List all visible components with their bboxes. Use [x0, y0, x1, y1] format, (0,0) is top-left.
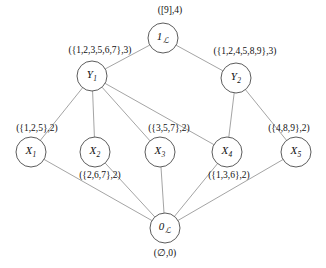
- node-label-x1: X1: [26, 145, 37, 159]
- edge-bot-x1: [44, 159, 152, 220]
- annot-y1: ({1,2,3,5,6,7},3): [69, 46, 132, 56]
- node-label-subscript-x1: 1: [32, 150, 36, 159]
- annot-x2: ({2,6,7},2): [79, 171, 121, 181]
- node-label-y2: Y2: [231, 71, 241, 85]
- annot-x5: ({4,8,9},2): [268, 124, 310, 134]
- node-label-base-x1: X: [26, 144, 33, 156]
- node-label-base-x2: X: [90, 144, 97, 156]
- edge-x4-y1: [105, 83, 214, 144]
- edge-bot-x5: [178, 160, 283, 221]
- node-label-subscript-x2: 2: [96, 150, 100, 159]
- node-label-x2: X2: [90, 145, 101, 159]
- annot-bot: (∅,0): [154, 249, 176, 259]
- node-label-base-bot: 0: [159, 220, 165, 232]
- node-label-bot: 0ℒ: [159, 221, 171, 235]
- node-label-script-top: ℒ: [163, 36, 170, 45]
- node-label-x3: X3: [155, 145, 166, 159]
- node-label-subscript-y1: 1: [93, 74, 97, 83]
- node-label-subscript-y2: 2: [237, 76, 241, 85]
- lattice-diagram: 1ℒY1Y2X1X2X3X4X50ℒ([9],4)({1,2,3,5,6,7},…: [0, 0, 326, 268]
- node-label-x5: X5: [291, 145, 302, 159]
- node-label-base-x3: X: [155, 144, 162, 156]
- node-label-x4: X4: [222, 145, 233, 159]
- node-label-base-top: 1: [157, 30, 163, 42]
- node-label-subscript-x3: 3: [161, 150, 165, 159]
- edge-x2-y1: [93, 91, 95, 137]
- node-label-base-x4: X: [222, 144, 229, 156]
- edge-x4-y2: [229, 93, 234, 137]
- annot-x3: ({3,5,7},2): [148, 124, 190, 134]
- annot-x1: ({1,2,5},2): [16, 124, 58, 134]
- node-label-script-bot: ℒ: [165, 226, 172, 235]
- annot-x4: ({1,3,6},2): [208, 171, 250, 181]
- node-label-subscript-x5: 5: [297, 150, 301, 159]
- node-label-top: 1ℒ: [157, 31, 169, 45]
- node-label-base-x5: X: [291, 144, 298, 156]
- edge-bot-x3: [161, 167, 164, 213]
- annot-y2: ({1,2,4,5,8,9},3): [214, 47, 277, 57]
- annot-top: ([9],4): [158, 6, 183, 16]
- node-label-subscript-x4: 4: [228, 150, 232, 159]
- node-label-y1: Y1: [87, 69, 97, 83]
